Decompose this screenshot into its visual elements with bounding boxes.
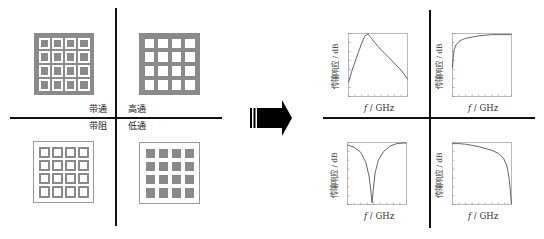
label-lowpass: 低通 (128, 121, 146, 131)
fss-unit-cell (39, 186, 50, 197)
right-vertical-divider (429, 10, 431, 228)
fss-unit-cell (172, 52, 182, 62)
fss-highpass-pattern (139, 33, 200, 95)
fss-unit-cell (65, 173, 76, 184)
label-highpass: 高通 (128, 104, 146, 114)
chart-3-xlabel: f / GHz (468, 211, 498, 221)
chart-0-xlabel: f / GHz (364, 103, 394, 113)
fss-bandstop-pattern (33, 141, 94, 203)
fss-unit-cell (39, 38, 50, 50)
fss-unit-cell (65, 65, 76, 77)
fss-unit-cell (65, 38, 76, 50)
fss-unit-cell (39, 65, 50, 77)
fss-unit-cell (39, 147, 50, 158)
chart-3-ylabel: 传输响应 / dB (436, 150, 444, 198)
fss-unit-cell (78, 65, 89, 77)
fss-unit-cell (65, 51, 76, 63)
fss-unit-cell (172, 175, 181, 184)
label-bandpass: 带通 (89, 104, 107, 114)
fss-unit-cell (185, 66, 195, 76)
fss-unit-cell (52, 186, 63, 197)
left-horizontal-divider (10, 117, 222, 119)
fss-unit-cell (159, 188, 168, 197)
fss-unit-cell (39, 51, 50, 63)
fss-unit-cell (65, 160, 76, 171)
fss-unit-cell (52, 65, 63, 77)
fss-unit-cell (145, 66, 155, 76)
fss-unit-cell (39, 173, 50, 184)
fss-unit-cell (145, 52, 155, 62)
fss-unit-cell (185, 188, 194, 197)
response-plot (348, 33, 408, 97)
fss-unit-cell (158, 66, 168, 76)
fss-unit-cell (52, 79, 63, 91)
response-plot (452, 142, 512, 205)
fss-unit-cell (158, 80, 168, 90)
chart-lowpass-response (452, 142, 512, 205)
chart-bandpass-response (348, 33, 408, 97)
label-bandstop: 带阻 (89, 121, 107, 131)
fss-unit-cell (172, 149, 181, 158)
fss-unit-cell (172, 80, 182, 90)
fss-unit-cell (159, 149, 168, 158)
fss-unit-cell (172, 162, 181, 171)
fss-unit-cell (52, 160, 63, 171)
chart-2-xlabel: f / GHz (364, 211, 394, 221)
chart-highpass-response (452, 33, 512, 97)
fss-bandpass-pattern (34, 33, 94, 95)
fss-unit-cell (146, 188, 155, 197)
fss-unit-cell (52, 38, 63, 50)
fss-unit-cell (158, 39, 168, 49)
fss-unit-cell (78, 173, 89, 184)
fss-unit-cell (146, 175, 155, 184)
fss-unit-cell (52, 51, 63, 63)
chart-1-ylabel: 传输响应 / dB (436, 41, 444, 89)
block-arrow-right-icon (250, 98, 294, 138)
fss-unit-cell (145, 39, 155, 49)
fss-unit-cell (185, 175, 194, 184)
chart-2-ylabel: 传输响应 / dB (331, 150, 339, 198)
fss-unit-cell (172, 66, 182, 76)
fss-unit-cell (159, 175, 168, 184)
chart-0-ylabel: 传输响应 / dB (332, 41, 340, 89)
fss-unit-cell (78, 38, 89, 50)
fss-unit-cell (65, 79, 76, 91)
fss-unit-cell (185, 39, 195, 49)
chart-bandstop-response (347, 142, 407, 205)
fss-unit-cell (158, 52, 168, 62)
response-plot (452, 33, 512, 97)
fss-unit-cell (146, 162, 155, 171)
chart-1-xlabel: f / GHz (468, 103, 498, 113)
fss-unit-cell (39, 79, 50, 91)
fss-unit-cell (185, 80, 195, 90)
fss-unit-cell (172, 188, 181, 197)
fss-unit-cell (185, 52, 195, 62)
fss-unit-cell (39, 160, 50, 171)
fss-unit-cell (78, 186, 89, 197)
response-plot (347, 142, 407, 205)
fss-unit-cell (172, 39, 182, 49)
fss-lowpass-pattern (139, 142, 200, 204)
right-horizontal-divider (323, 117, 535, 119)
fss-unit-cell (185, 149, 194, 158)
fss-unit-cell (78, 147, 89, 158)
fss-unit-cell (52, 173, 63, 184)
fss-unit-cell (52, 147, 63, 158)
fss-unit-cell (146, 149, 155, 158)
fss-unit-cell (65, 186, 76, 197)
fss-unit-cell (78, 79, 89, 91)
fss-unit-cell (78, 160, 89, 171)
fss-unit-cell (145, 80, 155, 90)
fss-unit-cell (78, 51, 89, 63)
fss-unit-cell (159, 162, 168, 171)
fss-unit-cell (185, 162, 194, 171)
fss-unit-cell (65, 147, 76, 158)
